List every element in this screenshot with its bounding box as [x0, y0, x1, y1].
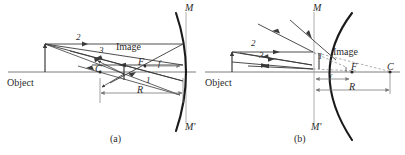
- focal-length-label-a: f: [158, 59, 161, 68]
- focal-point-label-b: F: [351, 62, 357, 72]
- radius-label-b: R: [349, 82, 355, 92]
- ray-label-3-a: 3: [99, 46, 104, 55]
- caption-b: (b): [294, 134, 306, 144]
- ray-label-2-b: 2: [251, 39, 256, 48]
- mirror-bottom-label-a: M': [185, 122, 195, 132]
- ray-extra-a: [45, 44, 180, 95]
- ray-2-reflected-b: [258, 24, 313, 52]
- mirror-top-label-b: M: [313, 3, 321, 13]
- ray-label-3-b: 3: [259, 51, 264, 60]
- image-label-b: Image: [333, 47, 358, 57]
- center-point-label-b: C: [387, 62, 394, 72]
- caption-a: (a): [110, 134, 121, 144]
- mirror-bottom-label-b: M': [311, 122, 321, 132]
- panel-b-graphics: [205, 12, 400, 140]
- image-label-a: Image: [116, 42, 141, 52]
- ray-label-1-b: 1: [318, 52, 323, 61]
- focal-point-label-a: F: [138, 57, 144, 67]
- ray-external-incoming-b: [290, 20, 336, 60]
- radius-label-a: R: [137, 85, 143, 95]
- ray-extra-reflect-a: [78, 66, 180, 95]
- object-label-b: Object: [205, 78, 232, 88]
- ray-2-direction-arrow-a: [82, 42, 88, 47]
- center-point-label-a: C: [95, 64, 102, 74]
- optics-figure: Object Image 2 3 1 M M' F C f R (a) Obje…: [0, 0, 405, 155]
- mirror-arc-b: [330, 13, 353, 140]
- ray-label-2-a: 2: [76, 33, 81, 42]
- panel-a-graphics: [8, 12, 196, 131]
- object-label-a: Object: [7, 78, 34, 88]
- ray-label-1-a: 1: [146, 76, 151, 85]
- focal-length-label-b: f: [329, 73, 332, 82]
- ray-diagram-canvas: [0, 0, 405, 155]
- mirror-top-label-a: M: [185, 3, 193, 13]
- ray-1-incident-a: [45, 44, 183, 65]
- ray-2-direction-arrow-b: [273, 50, 280, 55]
